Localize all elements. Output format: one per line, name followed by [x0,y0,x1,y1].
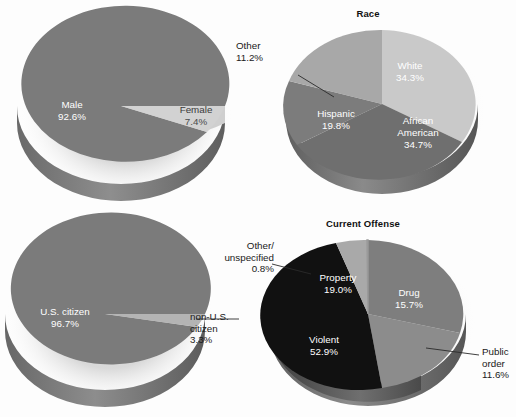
figure-canvas: Sex Male 92.6% [0,0,516,417]
chart-panel-sex: Sex Male 92.6% [0,0,250,208]
callout-public-order-value: 11.6% [482,369,509,381]
slice-label-white-value: 34.3% [396,72,424,83]
slice-label-male-name: Male [61,99,83,110]
slice-label-violent-value: 52.9% [310,346,338,357]
callout-non-us-citizen-value: 3.3% [190,334,229,346]
callout-non-us-citizen-l1: non-U.S. [190,311,229,323]
callout-other-unspecified: Other/ unspecified 0.8% [184,240,274,275]
slice-label-property-name: Property [319,272,356,283]
slice-label-aa-l2: American [397,127,438,138]
pie-chart-sex: Male 92.6% Female 7.4% [0,18,250,208]
callout-other-unspecified-l1: Other/ [184,240,274,252]
slice-label-male-value: 92.6% [58,111,86,122]
slice-label-drug-name: Drug [398,287,419,298]
chart-panel-offense: Current Offense [250,208,516,417]
slice-label-female-value: 7.4% [185,116,208,127]
callout-other-unspecified-value: 0.8% [184,263,274,275]
callout-other-race-value: 11.2% [236,52,263,64]
pie-chart-race: White 34.3% African American 34.7% Hispa… [250,16,516,206]
slice-label-us-citizen-value: 96.7% [51,318,79,329]
slice-label-us-citizen-name: U.S. citizen [40,306,90,317]
slice-label-drug-value: 15.7% [395,299,423,310]
slice-label-white-name: White [397,60,423,71]
slice-label-property-value: 19.0% [324,284,352,295]
callout-other-race: Other 11.2% [236,40,263,63]
pie-chart-offense: Property 19.0% Drug 15.7% Violent 52.9% [250,230,516,417]
slice-label-hispanic-value: 19.8% [322,120,350,131]
callout-non-us-citizen: non-U.S. citizen 3.3% [190,311,229,346]
slice-label-hispanic-name: Hispanic [317,108,355,119]
slice-label-aa-value: 34.7% [404,139,432,150]
callout-public-order-l1: Public [482,346,509,358]
callout-public-order-l2: order [482,358,509,370]
slice-label-aa-l1: African [403,115,434,126]
callout-other-race-label: Other [236,40,263,52]
callout-non-us-citizen-l2: citizen [190,323,229,335]
slice-label-violent-name: Violent [309,334,339,345]
pie-slice-other-unspecified[interactable] [367,240,368,314]
pie-slice-male[interactable] [21,6,229,162]
callout-other-unspecified-l2: unspecified [184,252,274,264]
chart-title-offense: Current Offense [278,218,448,229]
chart-panel-race: Race [250,0,516,208]
callout-public-order: Public order 11.6% [482,346,509,381]
slice-label-female-name: Female [180,104,213,115]
pie-slice-us-citizen[interactable] [11,212,211,364]
